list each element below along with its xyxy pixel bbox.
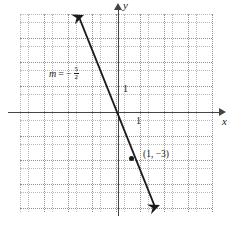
slope-variable: m	[49, 69, 56, 79]
slope-fraction: 5 2	[74, 66, 80, 82]
y-axis-label: y	[123, 0, 128, 11]
slope-equals-sign: =	[58, 69, 64, 79]
point-coordinate-label: (1, −3)	[143, 150, 169, 160]
slope-numerator: 5	[74, 66, 80, 73]
x-axis-unit-tick-label: 1	[136, 116, 141, 126]
x-axis-label: x	[222, 116, 227, 127]
plotted-point-marker	[129, 156, 134, 161]
plotted-line	[0, 0, 236, 227]
slope-denominator: 2	[74, 73, 80, 81]
slope-annotation: m = − 5 2	[49, 66, 79, 82]
coordinate-plane-figure: y x 1 1 (1, −3) m = − 5 2	[0, 0, 236, 227]
y-axis-unit-tick-label: 1	[123, 84, 128, 94]
slope-negative-sign: −	[66, 69, 72, 79]
